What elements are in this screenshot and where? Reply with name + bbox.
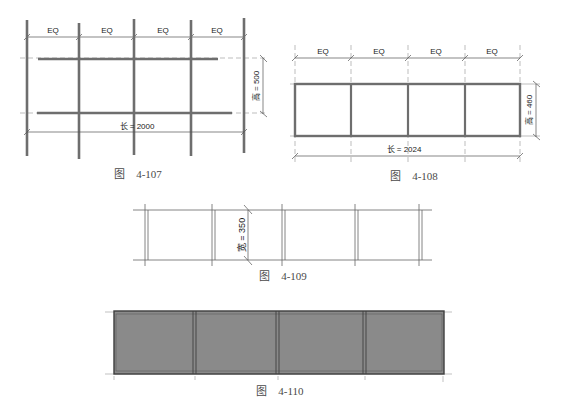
figure-caption: 图 4-107 [114,168,162,180]
figure-4-109: 宽 = 350 图 4-109 [133,204,432,282]
figure-4-107: EQ EQ EQ EQ 高 = 500 长 = 2000 图 4-107 [20,18,267,180]
eq-label: EQ [47,26,59,35]
height-label: 高 = 500 [251,70,261,101]
eq-label: EQ [373,47,385,56]
figure-caption: 图 4-110 [256,385,304,397]
figure-caption: 图 4-108 [390,170,438,182]
curtain-wall-figures: EQ EQ EQ EQ 高 = 500 长 = 2000 图 4-107 [0,0,564,414]
eq-label: EQ [317,47,329,56]
length-label: 长 = 2000 [120,121,155,131]
length-label: 长 = 2024 [387,144,422,154]
figure-4-110: 图 4-110 [105,311,452,397]
width-label: 宽 = 350 [236,218,247,252]
eq-label: EQ [101,26,113,35]
eq-label: EQ [430,47,442,56]
eq-label: EQ [157,26,169,35]
figure-caption: 图 4-109 [259,270,307,282]
mullion-lines [145,204,422,266]
height-label: 高 = 460 [524,94,534,125]
figure-4-108: EQ EQ EQ EQ 高 = 460 长 = 2024 图 4-108 [290,45,540,182]
grid-ticks [114,376,443,382]
eq-label: EQ [211,26,223,35]
eq-label: EQ [486,47,498,56]
